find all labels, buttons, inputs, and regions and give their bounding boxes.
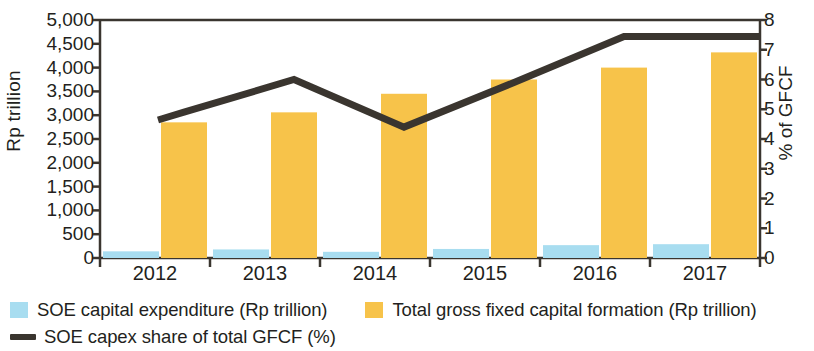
x-axis-tick-label: 2012 bbox=[105, 262, 205, 284]
x-axis-tick-label: 2017 bbox=[655, 262, 755, 284]
bar-soe-capex bbox=[653, 244, 709, 258]
bar-total-gfcf bbox=[491, 80, 537, 259]
bar-soe-capex bbox=[103, 251, 159, 258]
legend-label: Total gross fixed capital formation (Rp … bbox=[392, 299, 756, 321]
bar-total-gfcf bbox=[161, 122, 207, 258]
legend-item-total-gfcf: Total gross fixed capital formation (Rp … bbox=[365, 299, 756, 321]
x-axis-tick-label: 2013 bbox=[215, 262, 315, 284]
plot-area: Rp trillion % of GFCF 05001,0001,5002,00… bbox=[0, 0, 814, 290]
legend-row-primary: SOE capital expenditure (Rp trillion) To… bbox=[10, 296, 810, 323]
legend-swatch-icon bbox=[365, 302, 383, 318]
bar-soe-capex bbox=[433, 249, 489, 258]
legend-row-secondary: SOE capex share of total GFCF (%) bbox=[10, 323, 810, 350]
bar-total-gfcf bbox=[601, 68, 647, 258]
bar-total-gfcf bbox=[711, 52, 757, 258]
bar-soe-capex bbox=[213, 249, 269, 258]
legend-item-capex-share: SOE capex share of total GFCF (%) bbox=[10, 326, 336, 348]
x-axis-tick-label: 2014 bbox=[325, 262, 425, 284]
chart-figure: Rp trillion % of GFCF 05001,0001,5002,00… bbox=[0, 0, 814, 351]
legend-line-icon bbox=[10, 334, 36, 340]
legend-swatch-icon bbox=[10, 302, 28, 318]
x-axis-tick-label: 2015 bbox=[435, 262, 535, 284]
bar-soe-capex bbox=[543, 245, 599, 258]
legend-label: SOE capex share of total GFCF (%) bbox=[44, 326, 336, 348]
legend-label: SOE capital expenditure (Rp trillion) bbox=[37, 299, 327, 321]
bar-soe-capex bbox=[323, 252, 379, 258]
bar-total-gfcf bbox=[271, 112, 317, 258]
legend-item-soe-capex: SOE capital expenditure (Rp trillion) bbox=[10, 299, 327, 321]
chart-canvas bbox=[0, 0, 814, 290]
x-axis-tick-label: 2016 bbox=[545, 262, 645, 284]
chart-legend: SOE capital expenditure (Rp trillion) To… bbox=[10, 296, 810, 351]
line-capex-share bbox=[158, 36, 760, 127]
